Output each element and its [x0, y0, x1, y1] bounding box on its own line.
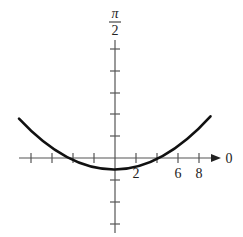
polar-graph: π 2 0 2 6 8	[0, 0, 243, 237]
arrow-head-icon	[211, 154, 221, 162]
tick-label-2: 2	[133, 166, 140, 181]
tick-label-8: 8	[196, 166, 203, 181]
tick-label-6: 6	[175, 166, 182, 181]
two-label: 2	[112, 23, 119, 38]
pi-label: π	[111, 6, 119, 21]
polar-axis-label: 0	[226, 151, 233, 166]
